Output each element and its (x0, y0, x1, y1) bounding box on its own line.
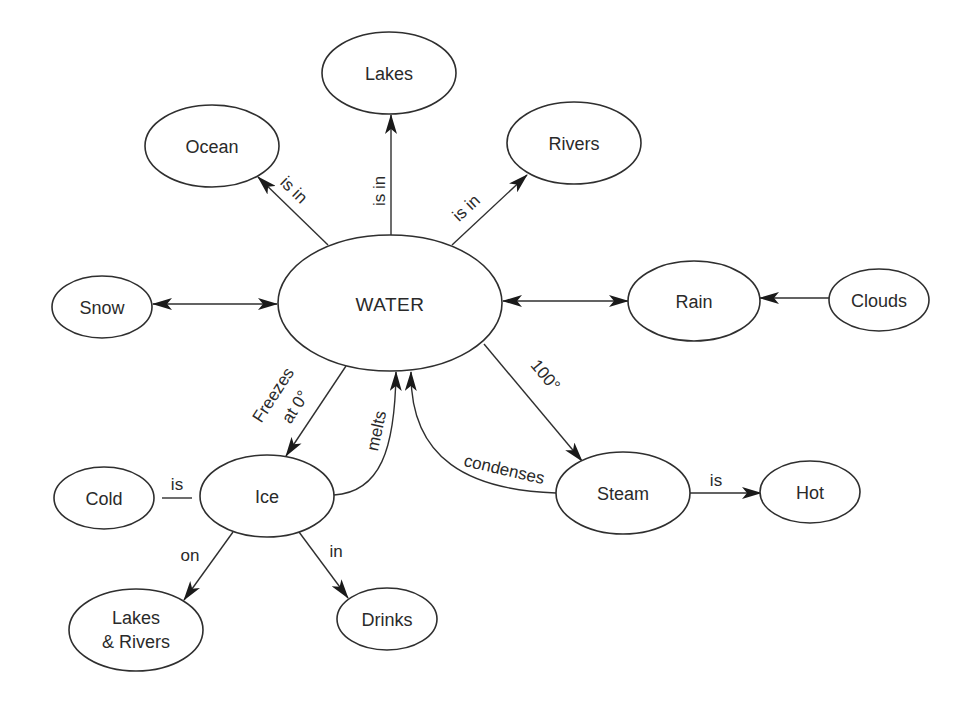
node-steam[interactable]: Steam (556, 452, 690, 534)
edge-label-steam-is: is (710, 471, 722, 490)
edge-ice-drinks: in (299, 532, 348, 598)
edge-water-ocean: is in (258, 173, 328, 245)
edge-label-lakes-is-in: is in (370, 176, 389, 206)
concept-map: is in is in is in Freezes at 0° melts 10… (0, 0, 974, 709)
node-rivers[interactable]: Rivers (507, 102, 641, 184)
node-cold[interactable]: Cold (54, 467, 154, 529)
edge-label-ice-in: in (329, 542, 342, 561)
node-label-ocean: Ocean (185, 137, 238, 157)
edge-label-melts: melts (363, 409, 390, 453)
node-clouds[interactable]: Clouds (829, 269, 929, 331)
node-label-clouds: Clouds (851, 291, 907, 311)
node-drinks[interactable]: Drinks (337, 588, 437, 650)
node-snow[interactable]: Snow (52, 276, 152, 338)
node-label-water: WATER (356, 294, 425, 315)
edge-label-ocean-is-in: is in (276, 173, 311, 208)
edge-ice-lakes-rivers: on (181, 532, 233, 600)
node-label-lakes-rivers-line1: Lakes (112, 608, 160, 628)
node-label-hot: Hot (796, 483, 824, 503)
edge-label-ice-is: is (171, 475, 183, 494)
edge-water-steam: 100° (484, 344, 582, 461)
edge-steam-hot: is (690, 471, 761, 493)
node-label-steam: Steam (597, 484, 649, 504)
edge-ice-water-melts: melts (334, 372, 396, 495)
edge-ice-cold: is (162, 475, 192, 498)
node-label-rain: Rain (675, 292, 712, 312)
edge-label-ice-on: on (181, 546, 200, 565)
arrow-ice-to-lakes-rivers (184, 532, 233, 600)
edge-water-lakes: is in (370, 115, 391, 236)
node-ocean[interactable]: Ocean (145, 105, 279, 187)
node-label-snow: Snow (79, 298, 125, 318)
edge-label-100-degrees: 100° (527, 356, 564, 395)
node-rain[interactable]: Rain (628, 261, 760, 341)
concept-map-svg: is in is in is in Freezes at 0° melts 10… (0, 0, 974, 709)
node-lakes[interactable]: Lakes (322, 32, 456, 114)
node-ice[interactable]: Ice (200, 455, 334, 537)
edge-water-rivers: is in (449, 175, 527, 245)
node-lakes-and-rivers[interactable]: Lakes & Rivers (69, 589, 203, 671)
node-label-lakes: Lakes (365, 64, 413, 84)
node-label-rivers: Rivers (548, 134, 599, 154)
node-label-cold: Cold (85, 489, 122, 509)
edge-steam-water-condenses: condenses (411, 372, 556, 493)
node-label-lakes-rivers-line2: & Rivers (102, 632, 170, 652)
node-hot[interactable]: Hot (760, 461, 860, 523)
edge-label-condenses: condenses (462, 451, 546, 488)
arrow-ice-to-water (334, 372, 396, 495)
node-water[interactable]: WATER (278, 235, 502, 371)
node-label-ice: Ice (255, 487, 279, 507)
node-label-drinks: Drinks (361, 610, 412, 630)
edge-water-ice-freezes: Freezes at 0° (249, 364, 346, 456)
